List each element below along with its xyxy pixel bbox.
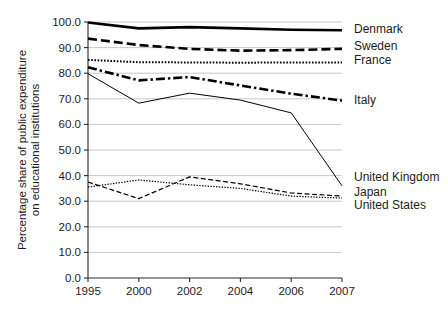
y-axis-tick-label: 20.0	[59, 221, 81, 233]
y-axis-tick-label: 30.0	[59, 195, 81, 207]
y-axis-tick-label: 60.0	[59, 118, 81, 130]
x-axis-tick-label: 2002	[177, 285, 203, 297]
y-axis-tick-label: 70.0	[59, 93, 81, 105]
series-label-japan: Japan	[354, 185, 387, 199]
y-axis-title-line-1: Percentage share of public expenditure	[16, 50, 28, 250]
y-axis-tick-label: 80.0	[59, 67, 81, 79]
y-axis-tick-label: 0.0	[65, 272, 81, 284]
x-axis-tick-label: 2006	[278, 285, 304, 297]
chart-container: 0.010.020.030.040.050.060.070.080.090.01…	[0, 0, 448, 318]
y-axis-tick-label: 90.0	[59, 42, 81, 54]
series-label-sweden: Sweden	[354, 39, 397, 53]
series-label-italy: Italy	[354, 93, 376, 107]
x-axis-tick-label: 2004	[228, 285, 254, 297]
series-label-united-states: United States	[354, 198, 426, 212]
y-axis-tick-label: 40.0	[59, 170, 81, 182]
y-axis-title-line-2: on educational institutions	[29, 84, 41, 217]
series-label-united-kingdom: United Kingdom	[354, 170, 439, 184]
y-axis-tick-label: 50.0	[59, 144, 81, 156]
line-chart: 0.010.020.030.040.050.060.070.080.090.01…	[0, 0, 448, 318]
y-axis-tick-label: 100.0	[52, 16, 81, 28]
x-axis-tick-label: 1995	[75, 285, 101, 297]
series-label-france: France	[354, 53, 392, 67]
series-label-denmark: Denmark	[354, 22, 404, 36]
x-axis-tick-label: 2000	[126, 285, 152, 297]
y-axis-tick-label: 10.0	[59, 246, 81, 258]
x-axis-tick-label: 2007	[329, 285, 355, 297]
